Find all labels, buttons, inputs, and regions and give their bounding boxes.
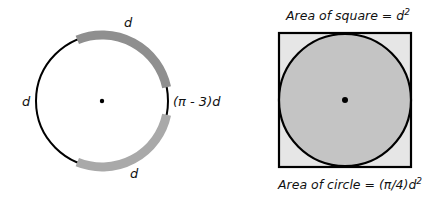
arc-top-d	[77, 35, 166, 87]
label-bottom-d: d	[130, 166, 139, 181]
label-top-d: d	[124, 15, 133, 30]
arc-bottom-d	[77, 115, 166, 167]
caption-area-circle: Area of circle = (π/4)d2	[277, 176, 422, 192]
center-dot	[342, 97, 348, 103]
caption-area-square: Area of square = d2	[285, 7, 410, 23]
label-pi-minus-3-d: (π - 3)d	[173, 94, 221, 109]
center-dot	[100, 99, 104, 103]
diagram-canvas: d d d (π - 3)d Area of square = d2 Area …	[0, 0, 434, 202]
circumference-diagram: d d d (π - 3)d	[22, 15, 221, 181]
label-left-d: d	[22, 94, 31, 109]
area-diagram: Area of square = d2 Area of circle = (π/…	[277, 7, 422, 192]
